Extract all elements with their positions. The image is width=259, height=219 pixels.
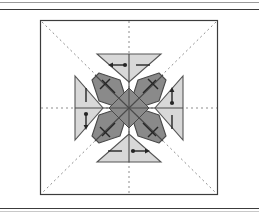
symmetry-diagram: Symmetry element diagram Square frame co… [0,0,259,219]
figure-root: Symmetry element diagram Square frame co… [0,0,259,219]
